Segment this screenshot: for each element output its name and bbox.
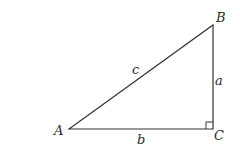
side-label-b: b [137, 132, 145, 147]
right-angle-marker [206, 122, 213, 129]
triangle-shape [69, 25, 213, 129]
vertex-label-a: A [53, 123, 63, 138]
vertex-label-b: B [215, 10, 226, 25]
right-triangle-diagram: B A C a b c [0, 0, 240, 152]
side-label-a: a [215, 73, 223, 88]
side-label-c: c [132, 62, 140, 77]
vertex-label-c: C [214, 128, 224, 143]
